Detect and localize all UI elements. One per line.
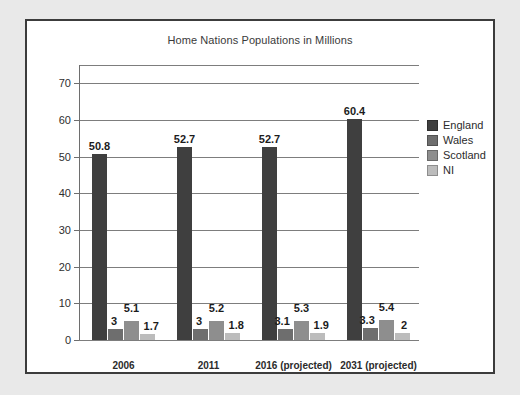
bar-value-label: 5.2	[209, 302, 224, 314]
bar[interactable]: 2	[395, 333, 410, 340]
bar-value-label: 1.7	[144, 320, 159, 332]
y-axis-tick-label: 10	[59, 297, 71, 309]
bar-value-label: 3	[196, 315, 202, 327]
legend: EnglandWalesScotlandNI	[427, 118, 513, 178]
bar-group: 60.43.35.422031 (projected)	[334, 65, 419, 340]
bar[interactable]: 3.1	[278, 329, 293, 340]
bar[interactable]: 5.2	[209, 321, 224, 340]
chart-title: Home Nations Populations in Millions	[27, 34, 493, 46]
legend-swatch	[427, 150, 438, 161]
bar[interactable]: 1.8	[225, 333, 240, 340]
bar[interactable]: 5.3	[294, 321, 309, 340]
legend-swatch	[427, 135, 438, 146]
x-axis-category-label: 2006	[112, 360, 134, 371]
bar[interactable]: 60.4	[347, 119, 362, 340]
bar-value-label: 5.3	[294, 302, 309, 314]
y-axis-tick-label: 30	[59, 224, 71, 236]
legend-swatch	[427, 120, 438, 131]
bar-value-label: 1.8	[229, 319, 244, 331]
bar-value-label: 2	[401, 319, 407, 331]
bar-group: 52.735.21.82011	[164, 65, 249, 340]
x-axis-category-label: 2031 (projected)	[340, 360, 417, 371]
bar-value-label: 52.7	[174, 133, 195, 145]
legend-item[interactable]: England	[427, 118, 513, 132]
y-axis-tick-label: 40	[59, 187, 71, 199]
bar-value-label: 5.4	[379, 301, 394, 313]
bar-value-label: 3.1	[274, 315, 289, 327]
chart-frame: Home Nations Populations in Millions 010…	[25, 19, 495, 374]
plot-inner: 010203040506070 50.835.11.7200652.735.21…	[79, 65, 419, 340]
y-axis-tick	[74, 340, 79, 341]
bar-value-label: 3.3	[359, 314, 374, 326]
bar[interactable]: 3	[193, 329, 208, 340]
bar[interactable]: 52.7	[177, 147, 192, 340]
bar[interactable]: 1.9	[310, 333, 325, 340]
legend-item[interactable]: Scotland	[427, 148, 513, 162]
x-axis-category-label: 2016 (projected)	[255, 360, 332, 371]
y-axis-tick-label: 60	[59, 114, 71, 126]
gridline	[79, 340, 419, 341]
bar-value-label: 52.7	[259, 133, 280, 145]
bar-group: 52.73.15.31.92016 (projected)	[249, 65, 334, 340]
legend-swatch	[427, 165, 438, 176]
y-axis-tick-label: 0	[65, 334, 71, 346]
bar-value-label: 60.4	[344, 105, 365, 117]
bar[interactable]: 3	[108, 329, 123, 340]
legend-label: Scotland	[443, 149, 486, 161]
legend-item[interactable]: NI	[427, 163, 513, 177]
plot-area: 010203040506070 50.835.11.7200652.735.21…	[79, 65, 419, 340]
bar-value-label: 5.1	[124, 302, 139, 314]
bar[interactable]: 3.3	[363, 328, 378, 340]
bar-group: 50.835.11.72006	[79, 65, 164, 340]
legend-label: Wales	[443, 134, 473, 146]
bar[interactable]: 1.7	[140, 334, 155, 340]
bar[interactable]: 52.7	[262, 147, 277, 340]
legend-item[interactable]: Wales	[427, 133, 513, 147]
bar-value-label: 50.8	[89, 140, 110, 152]
y-axis-tick-label: 70	[59, 77, 71, 89]
legend-label: England	[443, 119, 483, 131]
legend-label: NI	[443, 164, 454, 176]
bar[interactable]: 5.4	[379, 320, 394, 340]
bar[interactable]: 5.1	[124, 321, 139, 340]
x-axis-category-label: 2011	[198, 360, 220, 371]
bar[interactable]: 50.8	[92, 154, 107, 340]
bar-value-label: 1.9	[314, 319, 329, 331]
y-axis-tick-label: 50	[59, 151, 71, 163]
bar-value-label: 3	[111, 315, 117, 327]
y-axis-tick-label: 20	[59, 261, 71, 273]
